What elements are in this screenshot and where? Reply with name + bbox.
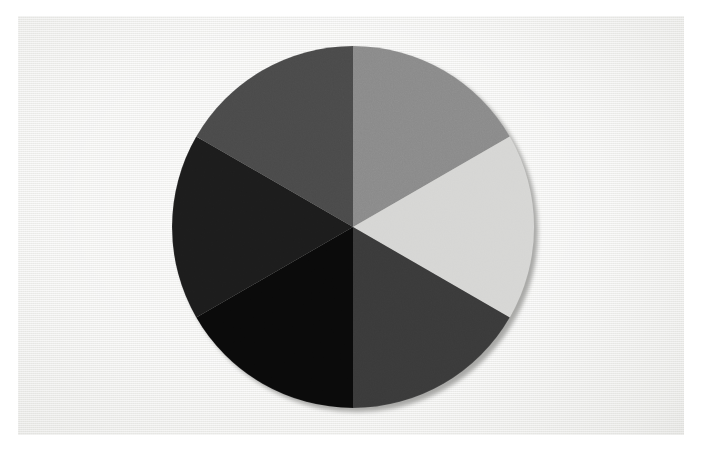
disc-grain-overlay — [18, 16, 684, 435]
photo-frame — [0, 0, 702, 451]
paper-background — [18, 16, 684, 435]
colour-wheel-chart — [18, 16, 684, 435]
colour-wheel-stage — [18, 16, 684, 435]
